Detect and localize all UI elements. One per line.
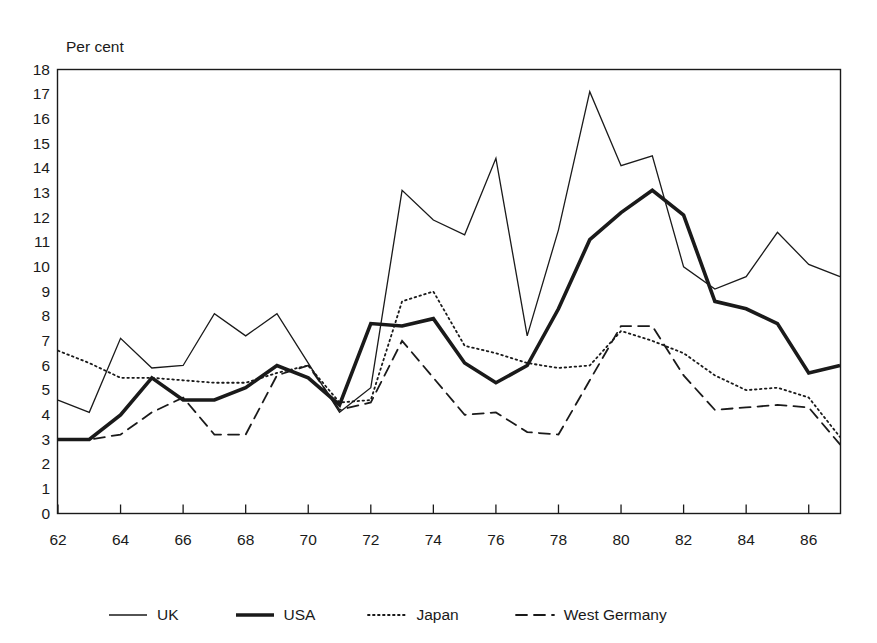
series-lines [58, 92, 840, 445]
chart-legend: UKUSAJapanWest Germany [108, 600, 788, 630]
x-tick-label: 68 [226, 532, 266, 548]
x-tick-label: 72 [351, 532, 391, 548]
legend-label: West Germany [564, 606, 667, 624]
legend-label: UK [157, 606, 179, 624]
x-tick-label: 82 [664, 532, 704, 548]
y-tick-label: 11 [24, 234, 50, 250]
x-tick-label: 74 [413, 532, 453, 548]
legend-label: Japan [416, 606, 458, 624]
y-tick-label: 2 [24, 456, 50, 472]
y-tick-label: 14 [24, 160, 50, 176]
x-tick-label: 84 [726, 532, 766, 548]
y-tick-label: 7 [24, 333, 50, 349]
x-tick-label: 80 [601, 532, 641, 548]
series-line-japan [58, 292, 840, 438]
legend-entry-japan[interactable]: Japan [367, 606, 458, 624]
x-tick-label: 70 [288, 532, 328, 548]
y-tick-label: 8 [24, 308, 50, 324]
x-tick-label: 86 [789, 532, 829, 548]
series-line-uk [58, 92, 840, 413]
x-tick-label: 66 [163, 532, 203, 548]
legend-entry-west-germany[interactable]: West Germany [515, 606, 667, 624]
y-tick-label: 17 [24, 86, 50, 102]
x-tick-label: 64 [101, 532, 141, 548]
plot-border [58, 70, 841, 514]
x-axis-ticks [58, 505, 809, 514]
y-tick-label: 13 [24, 185, 50, 201]
x-tick-label: 76 [476, 532, 516, 548]
y-tick-label: 1 [24, 481, 50, 497]
y-tick-label: 16 [24, 111, 50, 127]
legend-label: USA [284, 606, 316, 624]
y-tick-label: 18 [24, 62, 50, 78]
legend-line-sample [235, 608, 275, 622]
y-tick-label: 0 [24, 506, 50, 522]
y-tick-label: 3 [24, 432, 50, 448]
y-tick-label: 9 [24, 284, 50, 300]
y-tick-label: 6 [24, 358, 50, 374]
legend-line-sample [108, 608, 148, 622]
y-tick-label: 10 [24, 259, 50, 275]
y-tick-label: 12 [24, 210, 50, 226]
legend-line-sample [515, 608, 555, 622]
y-tick-label: 15 [24, 136, 50, 152]
y-tick-label: 4 [24, 407, 50, 423]
y-tick-label: 5 [24, 382, 50, 398]
x-tick-label: 78 [538, 532, 578, 548]
legend-entry-usa[interactable]: USA [235, 606, 316, 624]
legend-line-sample [367, 608, 407, 622]
legend-entry-uk[interactable]: UK [108, 606, 179, 624]
chart-figure: Per cent 1817161514131211109876543210 62… [0, 0, 877, 643]
x-tick-label: 62 [38, 532, 78, 548]
